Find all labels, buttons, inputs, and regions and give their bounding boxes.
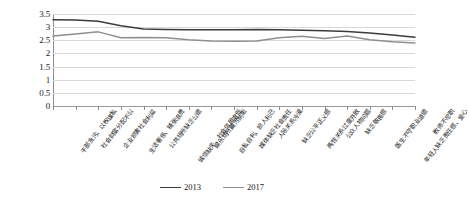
y-axis-tick-label: 0: [20, 102, 50, 111]
legend-line-swatch: [223, 187, 244, 188]
y-axis-tick-label: 1.5: [20, 62, 50, 71]
legend-item[interactable]: 2013: [160, 183, 201, 192]
legend-label: 2017: [247, 183, 264, 192]
x-axis-tick: [415, 106, 416, 110]
x-axis-category-label: 医生不守职业道德: [394, 108, 428, 150]
x-axis-category-label: 缺乏公平正义感: [301, 108, 332, 145]
series-line-2017: [53, 32, 415, 43]
y-axis-labels: 3.532.521.510.50: [20, 14, 50, 106]
legend-item[interactable]: 2017: [223, 183, 264, 192]
series-paths: [53, 14, 415, 106]
y-axis-tick-label: 2: [20, 49, 50, 58]
y-axis-tick-label: 3.5: [20, 10, 50, 19]
x-axis-labels: 干部贪污，以权谋私社会财富分配不公企业损害社会利益生活奢侈、铺张浪费公共场所缺乏…: [53, 108, 415, 170]
legend-label: 2013: [184, 183, 201, 192]
y-axis-tick-label: 3: [20, 23, 50, 32]
plot-area: [53, 14, 415, 106]
y-axis-tick-label: 1: [20, 75, 50, 84]
y-axis-tick-label: 2.5: [20, 36, 50, 45]
chart-legend: 20132017: [0, 183, 424, 192]
y-axis-tick-label: 0.5: [20, 88, 50, 97]
legend-line-swatch: [160, 187, 181, 188]
